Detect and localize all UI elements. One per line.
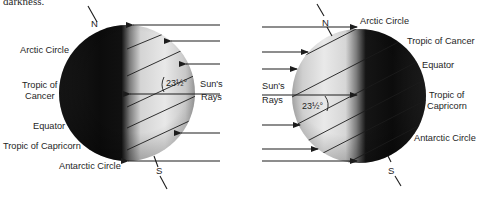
- right-north-label: N: [322, 17, 329, 28]
- left-south-label: S: [156, 165, 162, 176]
- right-label-antarctic-circle: Antarctic Circle: [414, 133, 476, 143]
- left-sun-rays-label-2: Rays: [201, 92, 222, 102]
- right-label-equator: Equator: [422, 60, 454, 70]
- left-label-antarctic-circle: Antarctic Circle: [59, 161, 121, 171]
- left-label-tropic-capricorn: Tropic of Capricorn: [3, 141, 81, 151]
- left-label-equator: Equator: [33, 121, 65, 131]
- right-angle-label: 23½°: [302, 101, 324, 111]
- left-globe: N S 23½° Sun's Rays Arctic Circle Tropic…: [3, 6, 223, 189]
- right-axis-north-inner: [327, 27, 332, 36]
- right-south-label: S: [388, 165, 394, 176]
- left-sun-rays-label-1: Sun's: [200, 79, 223, 89]
- left-label-arctic-circle: Arctic Circle: [20, 45, 69, 55]
- right-label-tropic-cancer: Tropic of Cancer: [407, 36, 475, 46]
- right-sun-rays-label-2: Rays: [262, 95, 283, 105]
- left-label-tropic-cancer-1: Tropic of: [22, 80, 58, 90]
- left-angle-label: 23½°: [166, 78, 188, 88]
- right-sun-rays-label-1: Sun's: [262, 81, 285, 91]
- left-north-label: N: [91, 18, 98, 29]
- right-label-tropic-capricorn-2: Capricorn: [427, 101, 467, 111]
- right-axis-south-inner: [388, 156, 391, 162]
- right-axis-south: [395, 176, 401, 186]
- left-axis-south: [160, 176, 167, 189]
- right-label-arctic-circle: Arctic Circle: [360, 16, 409, 26]
- right-globe: N S 23½° Sun's Rays Arctic Circle Tropic…: [262, 4, 476, 186]
- right-label-tropic-capricorn-1: Tropic of: [429, 90, 465, 100]
- solstice-diagram: darkness. N S 23½° S: [0, 0, 480, 204]
- right-axis-north: [317, 4, 324, 16]
- left-label-tropic-cancer-2: Cancer: [25, 91, 55, 101]
- caption-fragment: darkness.: [3, 0, 44, 7]
